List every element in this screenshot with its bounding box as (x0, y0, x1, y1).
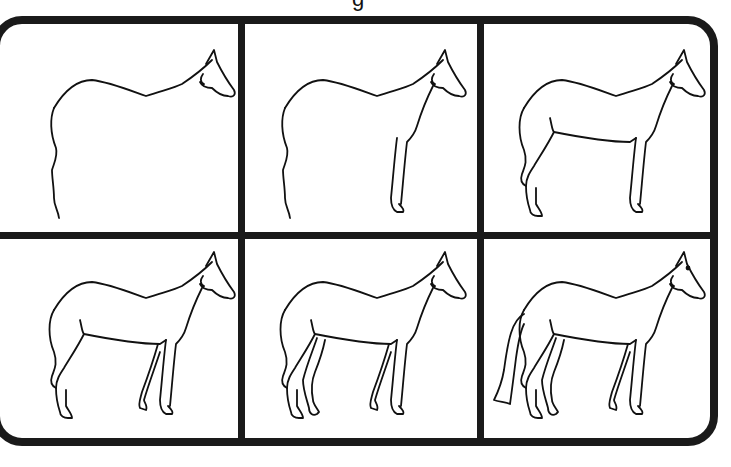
step-panel-3 (484, 38, 716, 232)
horse-belly (550, 118, 636, 142)
horse-front-leg-near (391, 288, 433, 414)
horse-hind-leg-near (526, 334, 554, 418)
horse-head (670, 252, 705, 299)
horse-front-leg-near (630, 86, 672, 212)
horse-front-leg-near (391, 86, 433, 212)
horse-drawing (14, 240, 246, 434)
horse-head (670, 50, 705, 97)
horse-head (200, 50, 235, 97)
horse-eye-icon (687, 267, 690, 270)
horse-back-line (524, 60, 682, 108)
horse-rear-haunch (281, 310, 288, 388)
step-panel-1 (14, 38, 246, 232)
horse-hind-leg-near (287, 334, 315, 418)
horse-drawing (484, 38, 716, 232)
horse-belly (550, 320, 636, 344)
horse-drawing (484, 240, 716, 434)
horse-rear-rough-line (51, 108, 59, 218)
horse-hind-leg-near (526, 132, 554, 216)
horse-front-leg-near (160, 288, 202, 414)
horse-back-line (54, 60, 212, 108)
horse-head (431, 50, 466, 97)
horse-front-leg-near (630, 288, 672, 414)
horse-rear-haunch (520, 108, 527, 186)
horse-back-line (285, 262, 443, 310)
horse-belly (311, 320, 397, 344)
horse-front-leg-far (370, 344, 391, 410)
title-partial-glyph: g (352, 0, 364, 12)
step-panel-5 (245, 240, 477, 434)
horse-front-leg-far (139, 344, 160, 410)
horse-drawing (245, 38, 477, 232)
horse-rear-rough-line (282, 108, 290, 218)
step-panel-6 (484, 240, 716, 434)
horse-head (200, 252, 235, 299)
horse-front-leg-far (609, 344, 630, 410)
tutorial-frame (0, 16, 718, 446)
horse-belly (80, 320, 166, 344)
step-panel-4 (14, 240, 246, 434)
horse-drawing (14, 38, 246, 232)
horse-back-line (285, 60, 443, 108)
horse-rear-haunch (50, 310, 57, 388)
column-divider-2 (477, 24, 484, 438)
horse-back-line (54, 262, 212, 310)
horse-drawing (245, 240, 477, 434)
row-divider (0, 232, 710, 239)
horse-head (431, 252, 466, 299)
horse-hind-leg-near (56, 334, 84, 418)
horse-rear-haunch (520, 310, 527, 388)
step-panel-2 (245, 38, 477, 232)
horse-back-line (524, 262, 682, 310)
